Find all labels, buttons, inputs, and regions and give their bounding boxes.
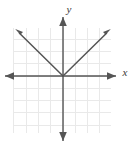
graph-svg: y x — [0, 0, 134, 147]
y-axis-label: y — [66, 3, 72, 15]
coordinate-plane-figure: y x — [0, 0, 134, 147]
x-axis-label: x — [122, 66, 128, 78]
